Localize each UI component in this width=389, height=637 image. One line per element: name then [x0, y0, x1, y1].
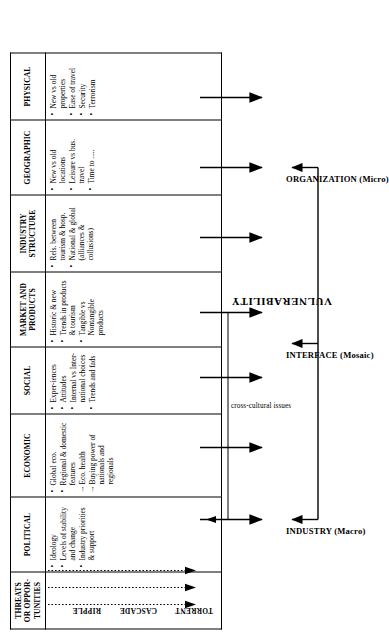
impact-arrow-torrent	[48, 566, 196, 574]
vulnerability-bracket	[292, 167, 318, 519]
impact-arrow-ripple	[48, 600, 196, 608]
tier-label-organization: ORGANIZATION (Micro)	[286, 173, 389, 183]
tier-label-industry: INDUSTRY (Macro)	[286, 525, 366, 535]
vulnerability-label: VULNERABILITY	[231, 295, 332, 307]
cross-cultural-issues-label: cross-cultural issues	[231, 401, 291, 409]
cross-cultural-connector	[206, 312, 240, 523]
tier-label-interface: INTERFACE (Mosaic)	[286, 349, 374, 359]
impact-arrow-cascade	[48, 583, 196, 591]
